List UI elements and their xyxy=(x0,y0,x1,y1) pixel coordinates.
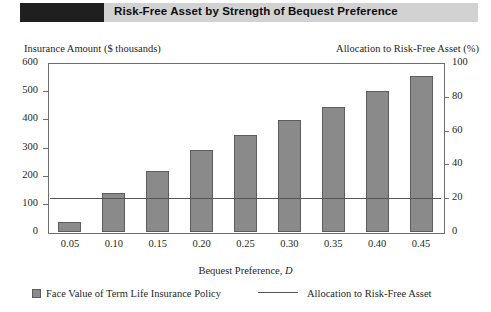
y-axis-right-tick-label: 0 xyxy=(452,226,491,237)
x-axis-title-text: Bequest Preference, xyxy=(198,265,285,276)
x-axis-tick-label: 0.20 xyxy=(180,238,224,249)
x-axis-tick-label: 0.45 xyxy=(399,238,443,249)
y-axis-right-tick-label: 60 xyxy=(452,125,491,136)
bar-column xyxy=(278,120,301,232)
legend-item-line: Allocation to Risk-Free Asset xyxy=(258,288,432,300)
y-axis-right-tick-mark xyxy=(444,164,449,165)
bar-column xyxy=(234,135,257,232)
y-axis-left-tick-label: 600 xyxy=(0,57,38,68)
y-axis-right-tick-label: 100 xyxy=(452,57,491,68)
risk-free-allocation-line xyxy=(50,198,440,199)
x-axis-title-symbol: D xyxy=(285,265,293,276)
y-axis-right-tick-label: 20 xyxy=(452,192,491,203)
x-axis-tick-label: 0.40 xyxy=(355,238,399,249)
x-axis-title: Bequest Preference, D xyxy=(0,265,491,276)
y-axis-left-tick-mark xyxy=(43,148,48,149)
x-axis-tick-label: 0.25 xyxy=(224,238,268,249)
chart-figure: Insurance Amount ($ thousands) Allocatio… xyxy=(0,0,491,312)
x-axis-tick-label: 0.15 xyxy=(136,238,180,249)
y-axis-left-tick-mark xyxy=(43,176,48,177)
legend-item-bars: Face Value of Term Life Insurance Policy xyxy=(32,288,221,300)
bar-column xyxy=(366,91,389,232)
legend-bar-swatch-icon xyxy=(32,289,41,298)
y-axis-right-tick-mark xyxy=(444,97,449,98)
y-axis-right-tick-label: 40 xyxy=(452,158,491,169)
y-axis-left-tick-label: 200 xyxy=(0,170,38,181)
y-axis-left-tick-label: 100 xyxy=(0,198,38,209)
y-axis-right-tick-label: 80 xyxy=(452,91,491,102)
y-axis-right-title: Allocation to Risk-Free Asset (%) xyxy=(336,43,479,54)
legend-line-swatch-icon xyxy=(258,292,298,293)
bar-column xyxy=(58,222,81,232)
y-axis-left-tick-label: 500 xyxy=(0,85,38,96)
y-axis-left-tick-label: 400 xyxy=(0,113,38,124)
x-axis-tick-label: 0.30 xyxy=(267,238,311,249)
y-axis-left-tick-label: 0 xyxy=(0,226,38,237)
chart-legend: Face Value of Term Life Insurance Policy… xyxy=(0,288,491,304)
y-axis-left-tick-mark xyxy=(43,91,48,92)
x-axis-tick-label: 0.35 xyxy=(311,238,355,249)
y-axis-left-tick-mark xyxy=(43,119,48,120)
y-axis-left-tick-mark xyxy=(43,204,48,205)
y-axis-left-title: Insurance Amount ($ thousands) xyxy=(24,43,161,54)
bar-column xyxy=(410,76,433,232)
legend-bar-label: Face Value of Term Life Insurance Policy xyxy=(46,288,221,299)
y-axis-right-tick-mark xyxy=(444,131,449,132)
legend-line-label: Allocation to Risk-Free Asset xyxy=(307,288,432,299)
y-axis-right-tick-mark xyxy=(444,198,449,199)
y-axis-left-tick-label: 300 xyxy=(0,142,38,153)
bar-column xyxy=(322,107,345,232)
bar-column xyxy=(190,150,213,232)
x-axis-tick-label: 0.10 xyxy=(92,238,136,249)
x-axis-tick-label: 0.05 xyxy=(48,238,92,249)
bar-column xyxy=(146,171,169,232)
